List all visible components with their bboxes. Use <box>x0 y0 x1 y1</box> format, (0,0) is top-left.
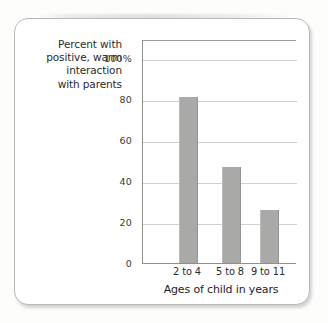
gridline <box>143 101 297 102</box>
y-axis-tick-label: 80 <box>120 94 133 105</box>
x-axis-tick-labels: 2 to 45 to 89 to 11 <box>142 266 296 282</box>
y-axis-tick-label: 0 <box>126 258 132 269</box>
y-axis-tick-label: 60 <box>120 135 133 146</box>
y-axis-tick-label: 100% <box>104 53 132 64</box>
y-axis-tick-labels: 020406080100% <box>96 40 138 264</box>
y-axis-tick-label: 20 <box>120 217 133 228</box>
plot-area <box>142 40 296 264</box>
bar <box>179 97 198 263</box>
bar <box>222 167 241 263</box>
gridline <box>143 183 297 184</box>
y-axis-tick-label: 40 <box>120 176 133 187</box>
x-axis-title: Ages of child in years <box>142 283 300 296</box>
x-axis-tick-label: 9 to 11 <box>240 266 296 277</box>
gridline <box>143 142 297 143</box>
figure-page: Percent with positive, warm interaction … <box>0 0 328 323</box>
gridline <box>143 60 297 61</box>
bar <box>260 210 279 263</box>
